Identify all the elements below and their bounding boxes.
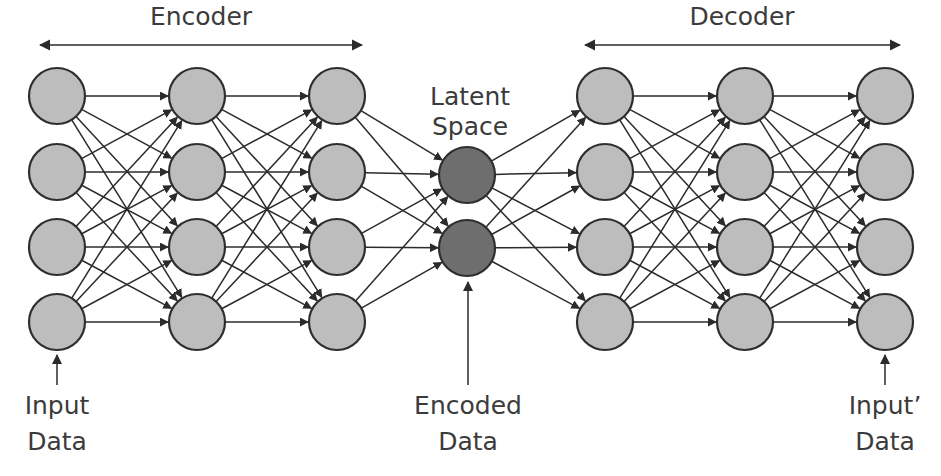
section-spans-group: EncoderDecoder xyxy=(40,2,900,45)
neuron-node[interactable] xyxy=(717,144,773,200)
neuron-node[interactable] xyxy=(29,144,85,200)
neuron-node[interactable] xyxy=(309,294,365,350)
input-prime-data-callout-line2: Data xyxy=(855,427,915,456)
connection-edge xyxy=(361,111,442,160)
autoencoder-svg-canvas: EncoderDecoder LatentSpaceInputDataEncod… xyxy=(0,0,941,476)
neuron-node[interactable] xyxy=(717,68,773,124)
neuron-node[interactable] xyxy=(857,144,913,200)
encoded-data-callout-line1: Encoded xyxy=(414,391,522,420)
neuron-node[interactable] xyxy=(309,144,365,200)
input-data-callout-line1: Input xyxy=(25,391,90,420)
connection-edge xyxy=(365,173,438,175)
neuron-node[interactable] xyxy=(169,68,225,124)
neuron-node[interactable] xyxy=(29,294,85,350)
neuron-node[interactable] xyxy=(577,144,633,200)
neuron-node[interactable] xyxy=(309,68,365,124)
latent-node[interactable] xyxy=(439,220,495,276)
connection-edge xyxy=(365,247,438,248)
latent-space-label-line2: Space xyxy=(432,112,508,141)
neuron-node[interactable] xyxy=(717,219,773,275)
autoencoder-diagram: EncoderDecoder LatentSpaceInputDataEncod… xyxy=(0,0,941,476)
decoder-span-label: Decoder xyxy=(689,2,795,31)
neuron-node[interactable] xyxy=(717,294,773,350)
connection-edge xyxy=(361,262,441,308)
latent-node[interactable] xyxy=(439,147,495,203)
encoder-span-label: Encoder xyxy=(150,2,253,31)
neuron-node[interactable] xyxy=(169,219,225,275)
neuron-node[interactable] xyxy=(857,294,913,350)
latent-space-label-line1: Latent xyxy=(430,82,510,111)
neuron-node[interactable] xyxy=(577,294,633,350)
neuron-node[interactable] xyxy=(29,68,85,124)
neuron-node[interactable] xyxy=(857,219,913,275)
neuron-node[interactable] xyxy=(577,68,633,124)
input-prime-data-callout-line1: Input’ xyxy=(849,391,922,420)
input-data-callout-line2: Data xyxy=(27,427,87,456)
encoded-data-callout-line2: Data xyxy=(438,427,498,456)
neuron-node[interactable] xyxy=(29,219,85,275)
connection-edge xyxy=(495,247,576,248)
neuron-node[interactable] xyxy=(169,144,225,200)
connection-edge xyxy=(492,261,580,308)
neuron-node[interactable] xyxy=(169,294,225,350)
neuron-node[interactable] xyxy=(577,219,633,275)
neuron-node[interactable] xyxy=(857,68,913,124)
neuron-node[interactable] xyxy=(309,219,365,275)
